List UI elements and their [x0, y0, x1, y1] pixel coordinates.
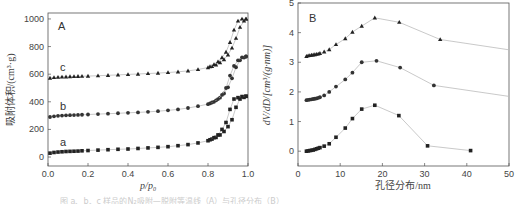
data-point — [136, 111, 140, 115]
data-point — [146, 110, 150, 114]
data-point — [208, 102, 212, 106]
data-point — [56, 114, 60, 118]
data-point — [216, 97, 220, 101]
panel-b-ylabel: dV/dD/[cm³/(g·nm)] — [261, 45, 273, 126]
data-point — [230, 118, 234, 122]
series-annotation: c — [60, 61, 66, 73]
data-point — [426, 144, 430, 148]
data-point — [232, 64, 236, 68]
data-point — [60, 150, 64, 154]
data-point — [166, 108, 170, 112]
data-point — [220, 128, 224, 132]
data-point — [126, 111, 130, 115]
data-point — [236, 96, 240, 100]
panel-b-axes-ticks: 01020304050012345 — [289, 0, 514, 179]
data-point — [232, 28, 236, 32]
data-point — [226, 125, 230, 129]
data-point — [106, 112, 110, 116]
series-line — [306, 61, 509, 100]
panel-b-frame — [298, 3, 509, 166]
data-point — [56, 150, 60, 154]
x-tick-label: 0.2 — [82, 169, 95, 179]
series-line — [50, 19, 246, 78]
x-tick-label: 0.4 — [122, 169, 135, 179]
data-point — [469, 149, 473, 153]
x-tick-label: 0.6 — [162, 169, 175, 179]
data-point — [76, 149, 80, 153]
data-point — [156, 109, 160, 113]
data-point — [236, 19, 240, 23]
data-point — [96, 112, 100, 116]
y-tick-label: 3 — [289, 57, 294, 67]
data-point — [208, 138, 212, 142]
data-point — [343, 126, 347, 130]
data-point — [48, 151, 52, 155]
data-point — [234, 106, 238, 110]
series-line — [306, 18, 509, 57]
y-tick-label: 0 — [289, 146, 294, 156]
data-point — [334, 42, 338, 46]
panel-a-frame — [48, 13, 248, 166]
series-b — [48, 55, 248, 119]
data-point — [232, 97, 236, 101]
series-line — [50, 96, 246, 153]
data-point — [196, 104, 200, 108]
data-point — [350, 30, 354, 34]
data-point — [240, 95, 244, 99]
x-tick-label: 20 — [377, 169, 387, 179]
y-tick-label: 0 — [39, 152, 44, 162]
data-point — [327, 47, 331, 51]
chart-canvas: 0.00.20.40.60.81.002004006008001000 abc … — [0, 0, 521, 204]
data-point — [228, 40, 232, 44]
x-tick-label: 50 — [504, 169, 514, 179]
panel-b-xlabel: 孔径分布/nm — [375, 179, 431, 191]
data-point — [86, 113, 90, 117]
panel-b-series — [304, 16, 509, 153]
data-point — [432, 83, 436, 87]
data-point — [212, 136, 216, 140]
data-point — [126, 147, 130, 151]
data-point — [228, 74, 232, 78]
data-point — [397, 114, 401, 118]
data-point — [86, 149, 90, 153]
x-tick-label: 0.0 — [42, 169, 55, 179]
panel-b-pore-size-chart: 01020304050012345 B 孔径分布/nm dV/dD/[cm³/(… — [261, 0, 514, 191]
data-point — [220, 93, 224, 97]
data-point — [224, 121, 228, 125]
data-point — [373, 103, 377, 107]
data-point — [244, 94, 248, 98]
series-line — [306, 105, 470, 151]
y-tick-label: 1000 — [24, 14, 44, 24]
y-tick-label: 5 — [289, 0, 294, 8]
data-point — [360, 24, 364, 28]
data-point — [236, 58, 240, 62]
x-tick-label: 1.0 — [242, 169, 255, 179]
data-point — [322, 144, 326, 148]
data-point — [60, 114, 64, 118]
x-tick-label: 10 — [335, 169, 345, 179]
y-tick-label: 4 — [289, 28, 294, 38]
data-point — [212, 100, 216, 104]
figure-caption: 图 a、b、c 样品的N₂吸附—脱附等温线（A）与孔径分布（B） — [60, 195, 460, 204]
data-point — [360, 107, 364, 111]
data-point — [72, 149, 76, 153]
data-point — [48, 115, 52, 119]
data-point — [68, 150, 72, 154]
panel-a-isotherm-chart: 0.00.20.40.60.81.002004006008001000 abc … — [4, 13, 254, 192]
data-point — [334, 85, 338, 89]
panel-a-series: abc — [48, 17, 248, 155]
x-tick-label: 0.8 — [202, 169, 215, 179]
series-c — [304, 16, 509, 58]
data-point — [230, 46, 234, 50]
y-tick-label: 2 — [289, 87, 294, 97]
y-tick-label: 200 — [29, 124, 44, 134]
data-point — [322, 94, 326, 98]
data-point — [76, 113, 80, 117]
x-tick-label: 0 — [295, 169, 300, 179]
series-annotation: a — [60, 136, 67, 148]
panel-a-ylabel: 吸附体积/(cm³·g) — [4, 54, 17, 127]
data-point — [52, 151, 56, 155]
series-b — [305, 59, 509, 102]
data-point — [375, 59, 379, 63]
data-point — [136, 147, 140, 151]
